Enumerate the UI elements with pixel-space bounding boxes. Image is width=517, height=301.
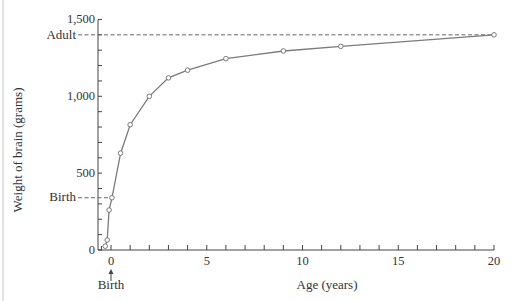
- x-axis-title: Age (years): [297, 277, 358, 292]
- data-point-marker: [105, 238, 110, 243]
- y-tick-label: 0: [89, 243, 95, 257]
- data-point-marker: [128, 122, 133, 127]
- data-point-marker: [147, 94, 152, 99]
- series-line: [105, 35, 494, 246]
- chart-canvas: 05001,0001,500 05101520 Weight of brain …: [0, 0, 517, 301]
- brain-weight-chart: 05001,0001,500 05101520 Weight of brain …: [0, 0, 517, 301]
- y-axis-title: Weight of brain (grams): [10, 88, 25, 213]
- data-point-marker: [166, 76, 171, 81]
- x-tick-label: 5: [204, 254, 210, 268]
- x-tick-label: 0: [108, 254, 114, 268]
- data-point-marker: [492, 33, 497, 38]
- x-tick-label: 10: [296, 254, 309, 268]
- y-axis: 05001,0001,500: [67, 12, 102, 257]
- data-point-marker: [110, 195, 115, 200]
- y-tick-label: 500: [76, 166, 95, 180]
- data-point-marker: [185, 68, 190, 73]
- x-axis: 05101520: [98, 245, 500, 281]
- data-point-marker: [281, 49, 286, 54]
- data-point-marker: [103, 244, 108, 249]
- x-tick-label: 15: [392, 254, 405, 268]
- birth-reference-label: Birth: [49, 189, 76, 204]
- y-tick-label: 1,500: [67, 12, 95, 26]
- reference-lines: [78, 35, 494, 198]
- x-tick-label: 20: [488, 254, 501, 268]
- data-point-marker: [339, 44, 344, 49]
- data-point-marker: [107, 208, 112, 213]
- birth-x-label: Birth: [98, 277, 125, 292]
- y-tick-label: 1,000: [67, 89, 95, 103]
- birth-arrowhead-icon: [109, 269, 114, 274]
- adult-reference-label: Adult: [46, 27, 76, 42]
- data-series: [103, 33, 496, 249]
- data-point-marker: [118, 151, 123, 156]
- data-point-marker: [224, 56, 229, 61]
